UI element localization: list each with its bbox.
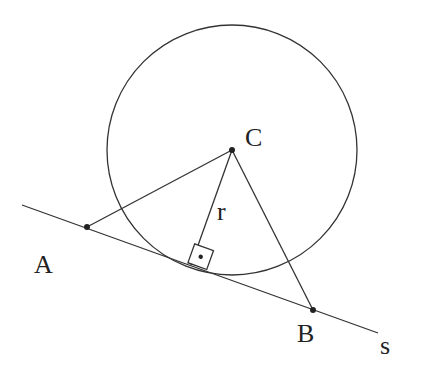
label-b: B: [297, 319, 314, 348]
segment-ca: [87, 150, 232, 227]
point-c: [229, 147, 235, 153]
label-s: s: [380, 331, 390, 360]
point-a: [84, 224, 90, 230]
label-a: A: [34, 250, 53, 279]
geometry-diagram: C r A B s: [0, 0, 421, 383]
label-c: C: [245, 123, 262, 152]
point-b: [310, 307, 316, 313]
label-r: r: [217, 197, 226, 226]
tangent-line-s: [22, 205, 378, 333]
segment-cb: [232, 150, 313, 310]
